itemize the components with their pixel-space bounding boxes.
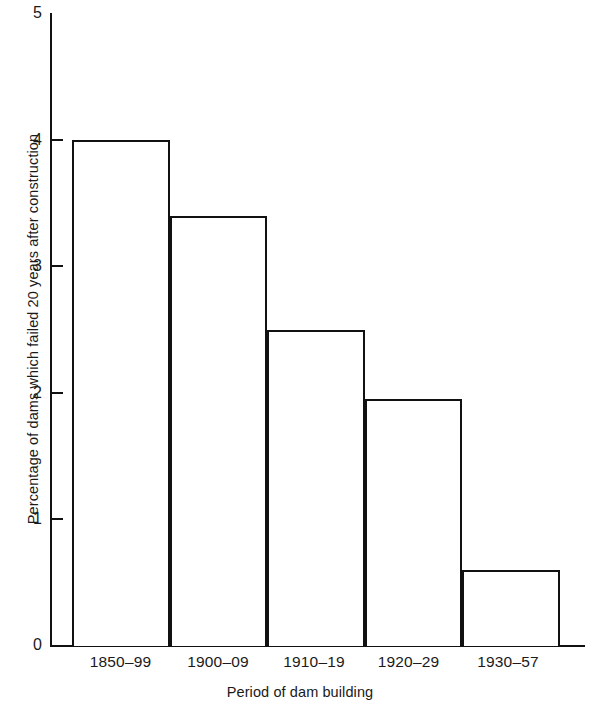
x-tick-label-0: 1850–99 — [72, 652, 169, 672]
bar-series — [0, 0, 600, 708]
x-tick-label-2: 1910–19 — [267, 652, 361, 672]
bar-1 — [170, 216, 268, 646]
bar-4 — [462, 570, 560, 646]
bar-2 — [267, 330, 365, 647]
x-tick-label-3: 1920–29 — [361, 652, 456, 672]
bar-0 — [72, 140, 170, 646]
bar-3 — [365, 399, 463, 646]
x-axis-title: Period of dam building — [0, 682, 600, 702]
x-tick-label-1: 1900–09 — [169, 652, 267, 672]
x-tick-label-4: 1930–57 — [456, 652, 560, 672]
bar-chart-figure: Percentage of dams which failed 20 years… — [0, 0, 600, 708]
